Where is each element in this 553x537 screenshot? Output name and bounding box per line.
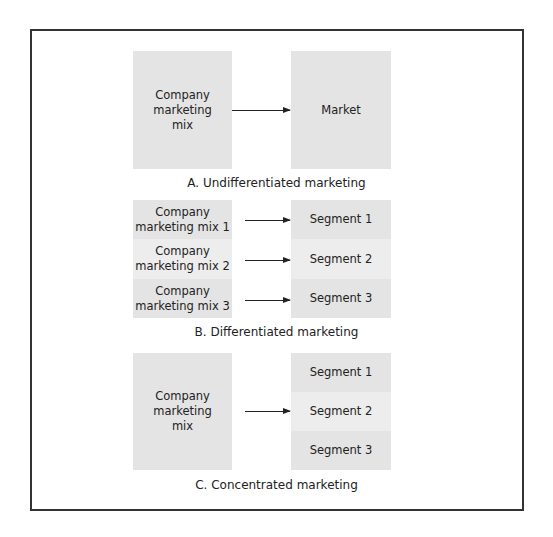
panel-b-source-2-line1: Company xyxy=(135,244,229,259)
panel-b-source-3: Companymarketing mix 3 xyxy=(133,279,232,318)
diagram-frame xyxy=(30,29,524,511)
panel-b-source-3-line2: marketing mix 3 xyxy=(135,299,229,314)
panel-a-source-line2: marketing xyxy=(153,103,212,118)
panel-b-source-1: Companymarketing mix 1 xyxy=(133,200,232,239)
panel-b-source-3-line1: Company xyxy=(135,284,229,299)
panel-b-segment-2: Segment 2 xyxy=(291,239,391,279)
panel-c-segment-3: Segment 3 xyxy=(291,431,391,470)
panel-b-source-2: Companymarketing mix 2 xyxy=(133,239,232,279)
panel-c-source-box: Company marketing mix xyxy=(133,353,232,470)
panel-b-caption: B. Differentiated marketing xyxy=(0,325,553,339)
panel-b-source-1-line1: Company xyxy=(135,205,229,220)
panel-b-segment-3-label: Segment 3 xyxy=(310,291,373,306)
panel-c-segment-stack: Segment 1 Segment 2 Segment 3 xyxy=(291,353,391,470)
panel-c-arrow-icon xyxy=(245,411,290,412)
panel-a-source-line3: mix xyxy=(153,118,212,133)
panel-b-segment-1: Segment 1 xyxy=(291,200,391,239)
panel-c-segment-1-label: Segment 1 xyxy=(310,365,373,380)
panel-b-arrow-1-icon xyxy=(245,220,290,221)
panel-b-segment-1-label: Segment 1 xyxy=(310,212,373,227)
panel-a-caption: A. Undifferentiated marketing xyxy=(0,176,553,190)
panel-a-market-label: Market xyxy=(321,103,361,118)
panel-c-source-line1: Company xyxy=(153,389,212,404)
panel-b-source-2-line2: marketing mix 2 xyxy=(135,259,229,274)
panel-c-caption: C. Concentrated marketing xyxy=(0,478,553,492)
panel-c-source-line2: marketing xyxy=(153,404,212,419)
panel-a-source-line1: Company xyxy=(153,88,212,103)
panel-c-segment-2: Segment 2 xyxy=(291,392,391,431)
panel-c-segment-1: Segment 1 xyxy=(291,353,391,392)
panel-b-source-1-line2: marketing mix 1 xyxy=(135,220,229,235)
panel-a-arrow-icon xyxy=(232,110,290,111)
panel-b-arrow-3-icon xyxy=(245,300,290,301)
panel-b-segment-2-label: Segment 2 xyxy=(310,252,373,267)
panel-c-segment-3-label: Segment 3 xyxy=(310,443,373,458)
panel-c-source-line3: mix xyxy=(153,419,212,434)
panel-c-segment-2-label: Segment 2 xyxy=(310,404,373,419)
panel-b-segment-3: Segment 3 xyxy=(291,279,391,318)
panel-a-source-box: Company marketing mix xyxy=(133,51,232,169)
panel-a-market-box: Market xyxy=(291,51,391,169)
panel-b-arrow-2-icon xyxy=(245,260,290,261)
